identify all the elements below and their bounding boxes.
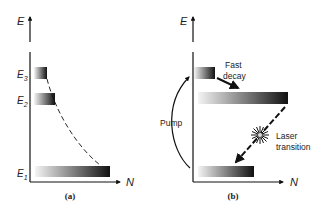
level-label-e3: E3 — [17, 69, 28, 82]
boltzmann-curve — [47, 79, 100, 165]
level-bar-top — [194, 67, 215, 79]
level-bar-e3 — [34, 67, 47, 79]
laser-label-1: Laser — [276, 131, 297, 141]
caption-a: (a) — [65, 191, 76, 201]
level-label-e1: E1 — [17, 168, 28, 181]
level-bar-upper-laser — [198, 92, 288, 104]
fast-decay-label-2: decay — [223, 71, 246, 81]
pump-label: Pump — [160, 118, 182, 128]
axis-label-e: E — [180, 15, 188, 27]
level-bar-ground — [198, 166, 254, 177]
axis-label-n: N — [290, 176, 298, 188]
energy-level-diagram: E N E3 E2 E1 (a) E N Pump Fast decay — [0, 0, 327, 210]
axis-label-n: N — [126, 176, 134, 188]
level-label-e2: E2 — [17, 95, 28, 108]
laser-label-2: transition — [276, 142, 311, 152]
fast-decay-label-1: Fast — [225, 60, 242, 70]
level-bar-e1 — [35, 166, 110, 177]
panel-a: E N E3 E2 E1 (a) — [17, 15, 134, 201]
caption-b: (b) — [228, 191, 239, 201]
axis-label-e: E — [17, 15, 25, 27]
laser-burst-icon — [251, 126, 269, 144]
panel-b: E N Pump Fast decay Laser — [160, 15, 311, 201]
